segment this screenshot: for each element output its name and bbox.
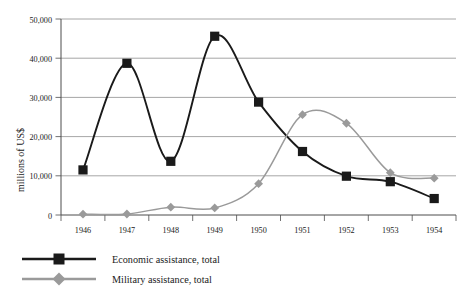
- data-point-square: [166, 157, 175, 166]
- data-point-diamond: [123, 210, 132, 219]
- line-chart: millions of US$ 0 10,000 20,000 30,000 4…: [0, 0, 463, 299]
- legend-label-military: Military assistance, total: [112, 274, 212, 285]
- data-point-square: [78, 165, 87, 174]
- legend-marker-diamond-icon: [53, 273, 66, 286]
- x-axis-ticks: [61, 215, 456, 221]
- y-axis-title-text: millions of US$: [15, 128, 26, 192]
- legend-marker-square-icon: [54, 254, 65, 265]
- data-point-square: [122, 59, 131, 68]
- legend-item-economic: Economic assistance, total: [22, 254, 220, 266]
- x-tick-label: 1951: [294, 226, 310, 235]
- data-point-diamond: [79, 210, 88, 219]
- chart-legend: Economic assistance, total Military assi…: [22, 254, 220, 286]
- chart-container: millions of US$ 0 10,000 20,000 30,000 4…: [0, 0, 463, 299]
- data-point-square: [298, 147, 307, 156]
- gridlines: [61, 19, 456, 176]
- data-point-square: [386, 177, 395, 186]
- x-tick-label: 1946: [75, 226, 91, 235]
- x-tick-label: 1948: [163, 226, 179, 235]
- data-point-diamond: [430, 174, 439, 183]
- y-tick-labels: 0 10,000 20,000 30,000 40,000 50,000: [29, 16, 52, 221]
- data-series-layer: [78, 32, 438, 219]
- data-point-diamond: [210, 204, 219, 213]
- y-tick-label: 30,000: [29, 94, 52, 103]
- x-tick-label: 1949: [207, 226, 223, 235]
- data-point-square: [210, 32, 219, 41]
- x-tick-labels: 1946 1947 1948 1949 1950 1951 1952 1953 …: [75, 226, 443, 235]
- data-point-square: [254, 98, 263, 107]
- y-axis-title: millions of US$: [15, 128, 26, 192]
- series-line: [83, 110, 434, 214]
- y-tick-label: 40,000: [29, 55, 52, 64]
- x-tick-label: 1950: [250, 226, 266, 235]
- data-point-diamond: [166, 203, 175, 212]
- legend-item-military: Military assistance, total: [22, 273, 212, 286]
- x-tick-label: 1953: [382, 226, 398, 235]
- series-line: [83, 35, 434, 198]
- y-tick-label: 0: [48, 212, 52, 221]
- y-tick-label: 20,000: [29, 133, 52, 142]
- y-tick-label: 50,000: [29, 16, 52, 25]
- data-point-square: [342, 172, 351, 181]
- data-point-square: [430, 194, 439, 203]
- x-tick-label: 1952: [338, 226, 354, 235]
- x-tick-label: 1954: [426, 226, 442, 235]
- legend-label-economic: Economic assistance, total: [112, 254, 220, 265]
- y-tick-label: 10,000: [29, 172, 52, 181]
- series-economic: [78, 32, 438, 203]
- x-tick-label: 1947: [119, 226, 135, 235]
- series-military: [79, 110, 439, 218]
- y-axis-ticks: [56, 19, 62, 215]
